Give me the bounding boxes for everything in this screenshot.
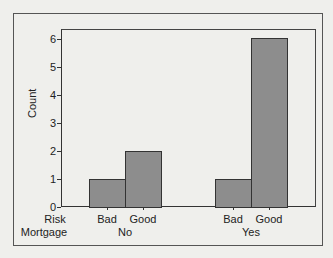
- y-tick-label: 3: [44, 118, 56, 129]
- y-tick-label: 0: [44, 202, 56, 213]
- bar-no-bad: [89, 179, 126, 208]
- x-tick: [107, 207, 108, 210]
- y-tick-label: 2: [44, 146, 56, 157]
- x-label-no-bad: Bad: [92, 213, 122, 225]
- y-tick-label: 5: [44, 62, 56, 73]
- row-label-mortgage: Mortgage: [19, 226, 69, 238]
- x-tick: [233, 207, 234, 210]
- y-tick-label: 6: [44, 34, 56, 45]
- y-axis-title: Count: [26, 89, 38, 118]
- group-label-yes: Yes: [236, 226, 266, 238]
- x-tick: [143, 207, 144, 210]
- y-tick: [57, 207, 61, 208]
- row-label-risk: Risk: [40, 213, 70, 225]
- y-tick: [57, 123, 61, 124]
- group-label-no: No: [110, 226, 140, 238]
- y-tick-label: 1: [44, 174, 56, 185]
- x-label-yes-bad: Bad: [218, 213, 248, 225]
- x-label-yes-good: Good: [253, 213, 285, 225]
- bar-yes-good: [251, 38, 288, 208]
- bar-yes-bad: [215, 179, 252, 208]
- x-tick: [269, 207, 270, 210]
- y-tick: [57, 151, 61, 152]
- y-tick: [57, 179, 61, 180]
- bar-no-good: [125, 151, 162, 208]
- y-tick-label: 4: [44, 90, 56, 101]
- y-tick: [57, 95, 61, 96]
- y-tick: [57, 39, 61, 40]
- y-tick: [57, 67, 61, 68]
- x-label-no-good: Good: [127, 213, 159, 225]
